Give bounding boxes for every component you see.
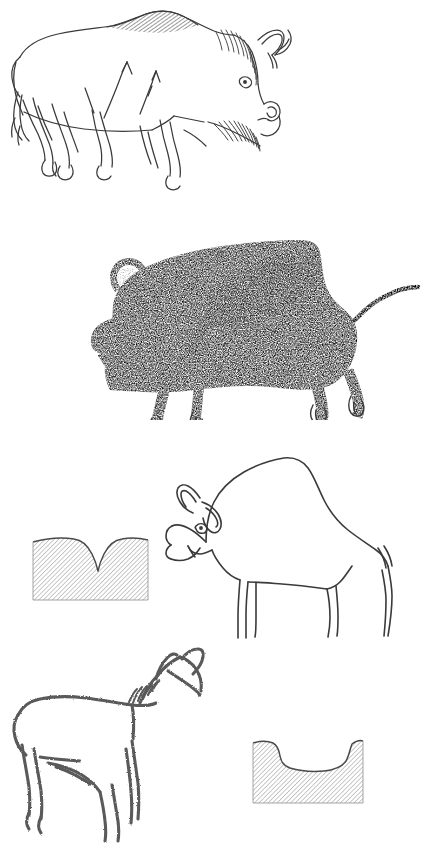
- cross-section-u-groove: [253, 741, 363, 803]
- cave-art-plate: [0, 0, 430, 858]
- figure-panel-outline-bison-and-v-groove: [0, 430, 430, 640]
- figure-panel-hatched-bison: [0, 0, 430, 200]
- outline-bison-and-v-groove-drawing: [0, 430, 430, 640]
- cross-section-v-groove: [33, 538, 148, 600]
- figure-panel-outline-horse-and-u-groove: [0, 645, 430, 858]
- figure-panel-stippled-bison: [0, 200, 430, 420]
- stippled-bison-facing-left-drawing: [0, 200, 430, 420]
- outline-horse-and-u-groove-drawing: [0, 645, 430, 858]
- hatched-bison-facing-right-drawing: [0, 0, 430, 200]
